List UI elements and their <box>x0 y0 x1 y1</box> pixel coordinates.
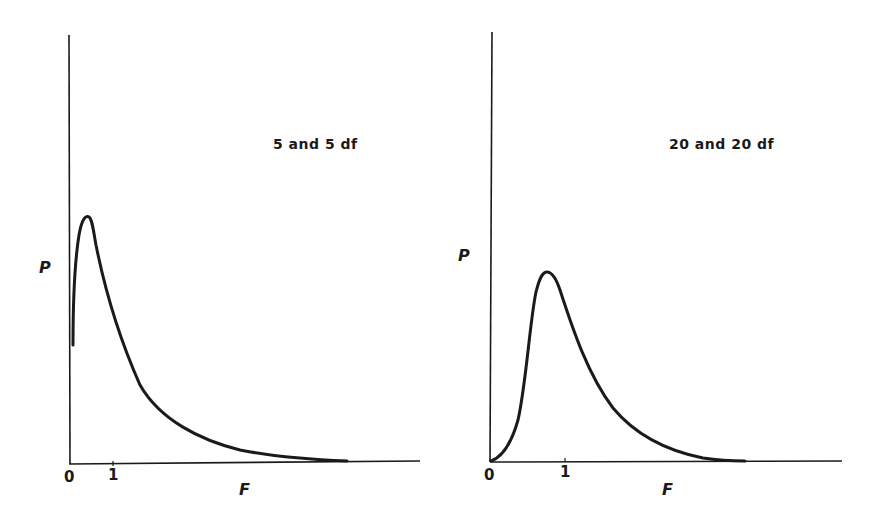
chart-annotation: 20 and 20 df <box>669 136 774 152</box>
chart-panel-5-5-df: 5 and 5 df P F 0 1 <box>0 0 438 514</box>
chart-panel-20-20-df: 20 and 20 df P F 0 1 <box>438 0 876 514</box>
y-axis <box>490 32 492 462</box>
x-tick-label-1: 1 <box>560 463 570 481</box>
x-tick-label-1: 1 <box>108 466 118 484</box>
y-axis-label: P <box>39 258 51 277</box>
x-axis <box>490 461 842 462</box>
chart-plot-area <box>0 0 438 514</box>
x-axis-label: F <box>239 480 250 499</box>
chart-annotation: 5 and 5 df <box>273 136 358 152</box>
x-axis-label: F <box>662 480 673 499</box>
x-tick-label-0: 0 <box>484 466 494 484</box>
density-curve <box>491 272 745 461</box>
x-axis <box>69 461 420 464</box>
x-tick-label-0: 0 <box>64 468 74 486</box>
y-axis <box>69 35 70 464</box>
density-curve <box>73 216 347 461</box>
y-axis-label: P <box>458 246 470 265</box>
chart-plot-area <box>438 0 876 514</box>
